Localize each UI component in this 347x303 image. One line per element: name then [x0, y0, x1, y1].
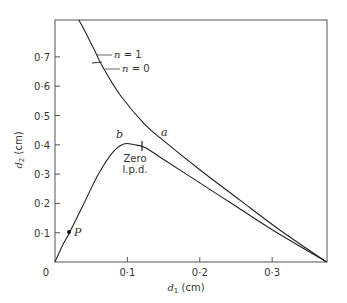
curve-b-label: b — [116, 128, 123, 141]
plot-frame — [55, 20, 327, 262]
curve-b — [55, 143, 327, 262]
y-tick-label: 0·5 — [34, 111, 50, 122]
annotation-n1: n = 1 — [114, 49, 142, 60]
zero-lpd-label-line1: Zero — [123, 153, 146, 164]
y-axis-ticks: 0·10·20·30·40·50·60·7 — [34, 52, 60, 239]
y-tick-label: 0·3 — [34, 169, 50, 180]
y-tick-label: 0·7 — [34, 52, 50, 63]
origin-label: 0 — [43, 267, 49, 278]
y-tick-label: 0·2 — [34, 198, 50, 209]
curve-a-label: a — [161, 126, 168, 139]
y-tick-label: 0·6 — [34, 81, 50, 92]
x-tick-label: 0·2 — [192, 267, 208, 278]
y-tick-label: 0·4 — [34, 140, 50, 151]
annotation-n0: n = 0 — [122, 63, 150, 74]
y-tick-label: 0·1 — [34, 228, 50, 239]
annotations: n = 1 n = 0 a b Zero l.p.d. P — [67, 49, 168, 239]
chart: 0·10·20·3 0·10·20·30·40·50·60·7 d1 (cm) … — [0, 0, 347, 303]
zero-lpd-label-line2: l.p.d. — [122, 164, 147, 175]
x-axis-ticks: 0·10·20·3 — [119, 257, 280, 278]
x-axis-label: d1 (cm) — [167, 282, 204, 295]
point-p-label: P — [73, 226, 82, 239]
y-axis-label: d2 (cm) — [13, 131, 26, 168]
x-tick-label: 0·3 — [264, 267, 280, 278]
curves — [55, 20, 327, 262]
point-p-marker — [67, 230, 71, 234]
x-tick-label: 0·1 — [119, 267, 135, 278]
